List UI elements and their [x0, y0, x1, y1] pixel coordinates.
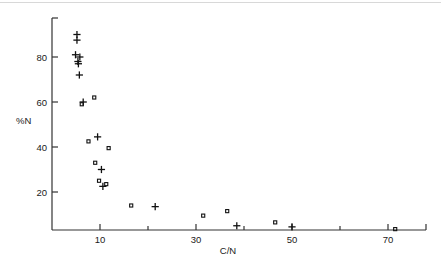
x-tick-label: 70	[383, 234, 394, 245]
data-point-square	[87, 140, 90, 143]
x-tick-label: 50	[287, 234, 298, 245]
data-point-cross	[73, 37, 80, 44]
data-point-square	[107, 147, 110, 150]
data-point-square	[94, 161, 97, 164]
data-point-square	[130, 204, 133, 207]
data-point-cross	[94, 133, 101, 140]
data-point-square	[226, 210, 229, 213]
data-point-cross	[233, 222, 240, 229]
y-tick-label: 80	[36, 52, 47, 63]
data-point-cross	[152, 203, 159, 210]
x-axis-ticks	[100, 224, 388, 230]
x-axis-tick-labels: 10305070	[95, 234, 394, 245]
data-point-cross	[99, 183, 106, 190]
data-point-square	[274, 221, 277, 224]
y-axis-ticks	[52, 57, 58, 192]
y-tick-label: 60	[36, 97, 47, 108]
data-point-cross	[76, 71, 83, 78]
data-point-cross	[288, 223, 295, 230]
scatter-plot: 10305070 20406080 C/N %N	[0, 0, 441, 266]
y-axis-title: %N	[16, 115, 31, 126]
y-tick-label: 20	[36, 187, 47, 198]
series-square-markers	[80, 96, 397, 231]
data-point-cross	[98, 166, 105, 173]
series-cross-markers	[72, 31, 296, 231]
data-point-square	[394, 228, 397, 231]
x-tick-label: 10	[95, 234, 106, 245]
y-tick-label: 40	[36, 142, 47, 153]
figure-canvas: 10305070 20406080 C/N %N	[0, 0, 441, 266]
axis-lines	[52, 18, 426, 230]
data-point-square	[93, 96, 96, 99]
data-point-square	[202, 214, 205, 217]
data-point-square	[105, 183, 108, 186]
x-axis-title: C/N	[220, 245, 237, 256]
y-axis-tick-labels: 20406080	[36, 52, 47, 198]
x-tick-label: 30	[191, 234, 202, 245]
data-point-square	[97, 179, 100, 182]
